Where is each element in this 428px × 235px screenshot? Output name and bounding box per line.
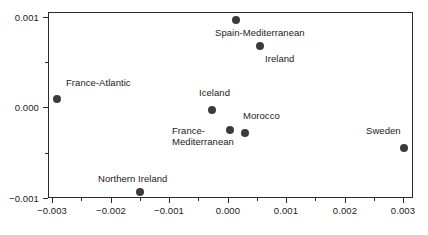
data-point[interactable] [53,95,61,103]
x-axis-tick-label: 0.001 [274,205,298,216]
data-point[interactable] [400,144,408,152]
x-axis-tick [52,198,53,203]
x-axis-tick [286,198,287,203]
data-point[interactable] [232,16,240,24]
y-axis-minor-tick [45,153,48,154]
x-axis-tick [345,198,346,203]
data-point-label: Sweden [366,126,401,137]
x-axis-tick [228,198,229,203]
x-axis-tick [403,198,404,203]
data-point-label: France- Mediterranean [172,126,234,147]
data-point[interactable] [136,188,144,196]
y-axis-tick-label: −0.001 [9,193,39,204]
y-axis-tick [43,198,48,199]
plot-frame [48,12,413,198]
x-axis-tick [111,198,112,203]
x-axis-tick-label: 0.003 [391,205,415,216]
scatter-plot-figure: −0.003−0.002−0.0010.0000.0010.0020.0030.… [0,0,428,235]
y-axis-tick-label: 0.000 [15,102,39,113]
x-axis-minor-tick [374,198,375,201]
x-axis-tick [169,198,170,203]
x-axis-tick-label: −0.002 [96,205,126,216]
x-axis-tick-label: −0.003 [37,205,67,216]
data-point-label: Northern Ireland [98,174,167,185]
y-axis-tick [43,17,48,18]
x-axis-minor-tick [198,198,199,201]
data-point-label: France-Atlantic [66,78,131,89]
data-point-label: Morocco [243,111,280,122]
x-axis-minor-tick [315,198,316,201]
data-point-label: Iceland [199,88,230,99]
y-axis-minor-tick [45,62,48,63]
data-point-label: Ireland [265,54,294,65]
x-axis-tick-label: −0.001 [154,205,184,216]
y-axis-tick [43,107,48,108]
x-axis-minor-tick [257,198,258,201]
data-point[interactable] [241,129,249,137]
x-axis-minor-tick [140,198,141,201]
data-point[interactable] [208,106,216,114]
data-point[interactable] [256,42,264,50]
x-axis-tick-label: 0.002 [333,205,357,216]
x-axis-minor-tick [81,198,82,201]
x-axis-tick-label: 0.000 [216,205,240,216]
y-axis-tick-label: 0.001 [15,12,39,23]
data-point-label: Spain-Mediterranean [215,28,305,39]
